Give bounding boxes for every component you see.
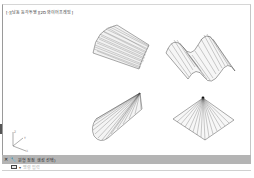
ucs-z-label: Z <box>14 130 16 134</box>
command-history-bar: ✕ 🔧 원형 정점 생성 선택) <box>2 155 251 164</box>
drawing-canvas[interactable] <box>3 5 252 156</box>
pyramid-ruled-surface[interactable] <box>173 97 234 140</box>
wrench-icon[interactable]: 🔧 <box>10 157 16 162</box>
ucs-icon: Z Y X <box>9 129 31 153</box>
command-prompt-text: 원형 정점 생성 선택) <box>18 157 55 163</box>
ucs-x-label: X <box>26 149 28 153</box>
command-input[interactable]: 명령 입력 <box>23 164 40 170</box>
close-icon[interactable]: ✕ <box>4 157 8 162</box>
command-input-row[interactable]: ▾ 명령 입력 <box>2 164 251 171</box>
viewport-scroll-handle[interactable] <box>0 124 2 134</box>
cone-ruled-surface[interactable] <box>92 93 142 141</box>
ucs-y-label: Y <box>24 136 26 140</box>
model-viewport[interactable]: [-][남동 등각투영][2D 와이어프레임] <box>2 4 251 155</box>
command-icon[interactable] <box>11 165 17 169</box>
chevron-down-icon[interactable]: ▾ <box>19 165 21 170</box>
curved-ruled-surface[interactable] <box>93 25 149 69</box>
wave-ruled-surface[interactable] <box>166 34 235 81</box>
